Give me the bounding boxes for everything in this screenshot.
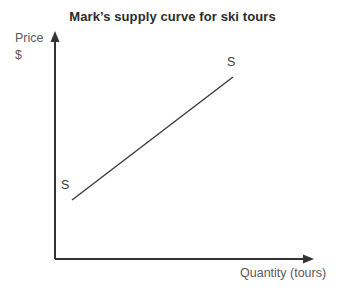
y-axis-label-price: Price	[15, 31, 43, 45]
y-axis-label-currency: $	[15, 48, 22, 62]
plot-area	[0, 0, 345, 300]
supply-curve-label-upper: S	[227, 55, 235, 69]
y-axis-arrow-icon	[51, 31, 60, 42]
x-axis-label-quantity: Quantity (tours)	[240, 266, 326, 280]
supply-curve-figure: Mark’s supply curve for ski tours Price …	[0, 0, 345, 300]
supply-curve-label-lower: S	[61, 178, 69, 192]
x-axis-arrow-icon	[303, 255, 314, 264]
supply-curve-line	[72, 77, 233, 200]
